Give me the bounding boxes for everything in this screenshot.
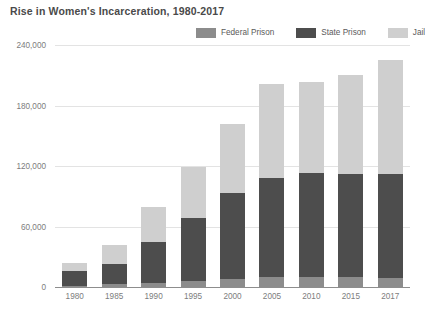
bar-segment	[141, 283, 166, 287]
bar-group[interactable]	[181, 167, 206, 287]
x-axis-tick-label: 2000	[223, 292, 241, 301]
bar-segment	[220, 193, 245, 279]
x-axis-tick-label: 2015	[342, 292, 360, 301]
legend-item[interactable]: Federal Prison	[196, 28, 274, 38]
chart-title: Rise in Women's Incarceration, 1980-2017	[10, 5, 224, 17]
bar-group[interactable]	[299, 82, 324, 287]
legend-swatch-icon	[196, 28, 216, 38]
bar-segment	[259, 277, 284, 287]
bar-segment	[62, 271, 87, 286]
bar-group[interactable]	[102, 245, 127, 287]
bar-group[interactable]	[62, 263, 87, 287]
legend-swatch-icon	[388, 28, 408, 38]
legend-item[interactable]: State Prison	[296, 28, 366, 38]
x-axis-labels: 198019851990199520002005201020152017	[55, 292, 410, 306]
x-axis-tick-label: 1985	[105, 292, 123, 301]
bar-segment	[102, 245, 127, 264]
legend-swatch-icon	[296, 28, 316, 38]
bar-segment	[141, 242, 166, 283]
bar-segment	[181, 218, 206, 281]
bar-segment	[338, 75, 363, 174]
y-axis-tick-label: 120,000	[16, 162, 46, 171]
bar-segment	[102, 284, 127, 287]
y-axis-labels: 060,000120,000180,000240,000	[0, 45, 50, 288]
bar-segment	[378, 278, 403, 287]
bar-segment	[62, 286, 87, 288]
bar-segment	[378, 174, 403, 278]
bars-layer	[55, 45, 410, 288]
bar-group[interactable]	[338, 75, 363, 287]
bar-segment	[220, 124, 245, 194]
bar-segment	[181, 281, 206, 287]
y-axis-tick-label: 180,000	[16, 101, 46, 110]
x-axis-tick-label: 1990	[145, 292, 163, 301]
bar-segment	[102, 264, 127, 285]
y-axis-tick-label: 0	[41, 283, 46, 292]
x-axis-tick-label: 2005	[263, 292, 281, 301]
x-axis-tick-label: 2017	[381, 292, 399, 301]
x-axis-tick-label: 1980	[66, 292, 84, 301]
legend-item-label: Jail	[413, 28, 425, 38]
bar-group[interactable]	[141, 207, 166, 287]
bar-segment	[62, 263, 87, 271]
bar-segment	[338, 174, 363, 277]
plot-area	[55, 45, 410, 288]
bar-segment	[299, 82, 324, 173]
bar-segment	[299, 277, 324, 287]
y-axis-tick-label: 240,000	[16, 41, 46, 50]
x-axis-tick-label: 2010	[302, 292, 320, 301]
bar-group[interactable]	[259, 84, 284, 287]
legend-item-label: Federal Prison	[221, 28, 274, 38]
legend-item[interactable]: Jail	[388, 28, 425, 38]
chart-legend: Federal PrisonState PrisonJail	[196, 27, 425, 38]
bar-segment	[220, 279, 245, 287]
y-axis-tick-label: 60,000	[21, 222, 46, 231]
bar-segment	[299, 173, 324, 277]
legend-item-label: State Prison	[321, 28, 366, 38]
bar-segment	[181, 167, 206, 218]
x-axis-tick-label: 1995	[184, 292, 202, 301]
bar-group[interactable]	[220, 124, 245, 287]
bar-segment	[259, 84, 284, 178]
bar-segment	[378, 60, 403, 174]
bar-group[interactable]	[378, 60, 403, 287]
bar-segment	[259, 178, 284, 277]
bar-segment	[141, 207, 166, 241]
bar-segment	[338, 277, 363, 287]
